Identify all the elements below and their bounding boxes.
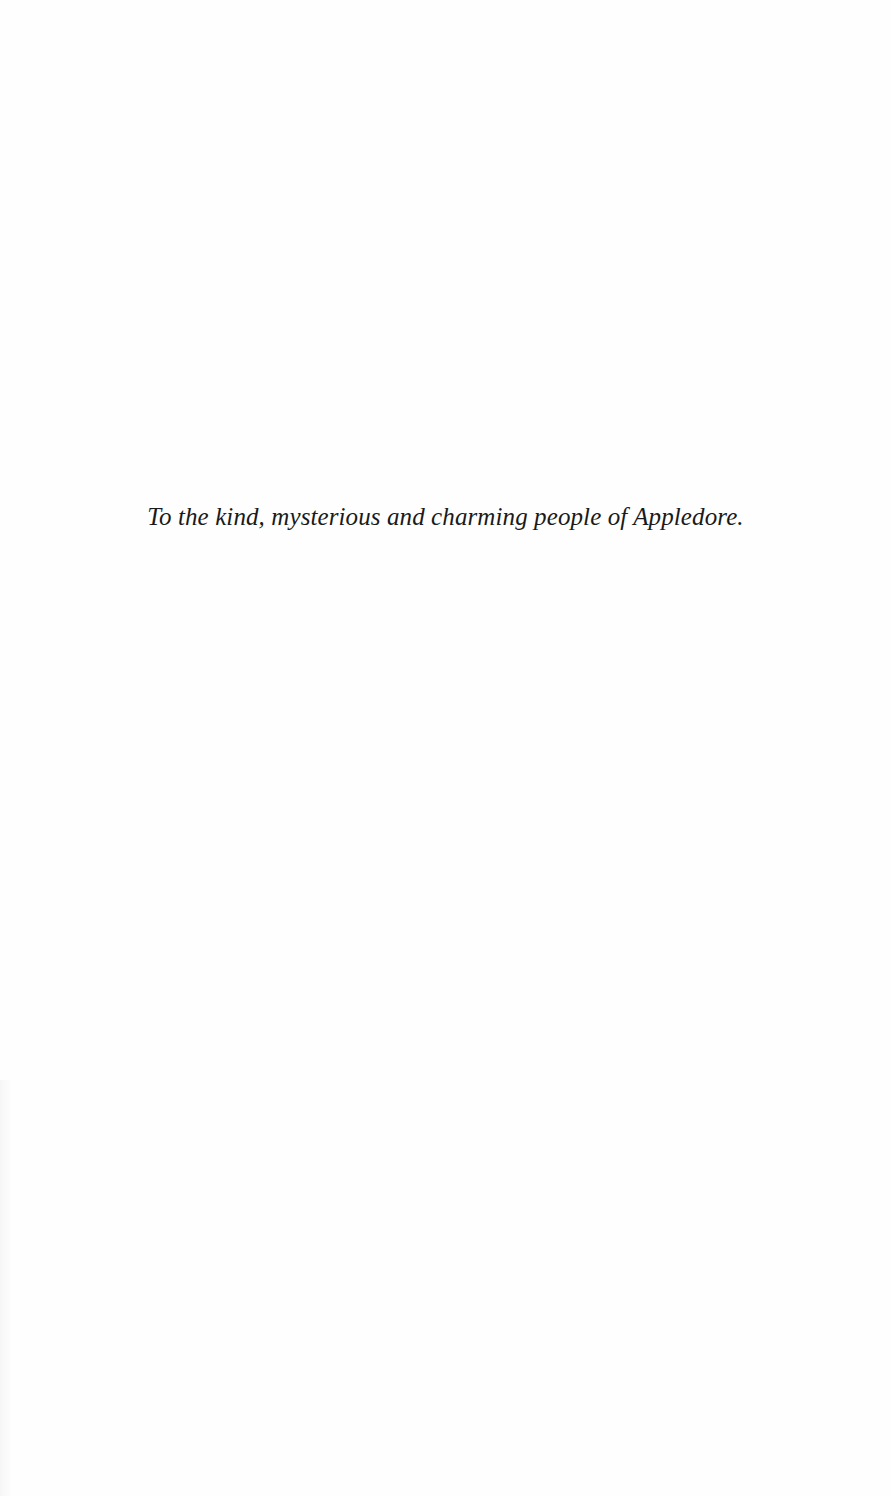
page-edge-shadow (0, 1080, 12, 1496)
book-page: To the kind, mysterious and charming peo… (0, 0, 891, 1496)
dedication-text: To the kind, mysterious and charming peo… (0, 499, 891, 535)
